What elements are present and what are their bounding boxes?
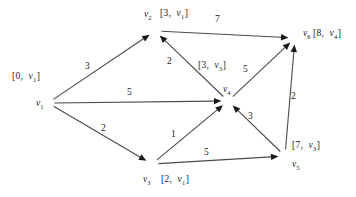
node-name-v1: v1 <box>36 99 43 110</box>
edge-v2-to-v6 <box>161 31 281 37</box>
node-name-v5: v5 <box>292 160 299 171</box>
node-distance-label-v4: [3, v3] <box>198 61 226 72</box>
arrowhead-v1-to-v3 <box>138 154 146 161</box>
edge-v3-to-v5 <box>158 157 271 164</box>
edge-weight-v1-to-v3: 2 <box>101 124 106 134</box>
edge-v5-to-v4 <box>238 111 280 152</box>
node-name-v4: v4 <box>223 85 230 96</box>
arrowhead-v5-to-v6 <box>291 44 297 52</box>
node-distance-label-v6: [8, v4] <box>313 29 341 40</box>
edge-weight-v1-to-v4: 5 <box>127 88 132 98</box>
node-distance-label-v2: [3, v1] <box>160 9 188 20</box>
node-distance-label-v3: [2, v1] <box>161 175 189 186</box>
edge-weight-v1-to-v2: 3 <box>85 62 90 72</box>
edge-weight-v2-to-v6: 7 <box>215 15 220 25</box>
arrowhead-v1-to-v4 <box>214 98 222 104</box>
edge-weight-v4-to-v2: 2 <box>167 57 172 67</box>
edge-weight-v3-to-v4: 1 <box>171 130 176 140</box>
node-distance-label-v5: [7, v3] <box>292 141 320 152</box>
edge-weight-v3-to-v5: 5 <box>204 148 209 158</box>
node-name-v3: v3 <box>143 175 150 186</box>
arrowhead-v2-to-v6 <box>281 34 289 40</box>
edge-v4-to-v6 <box>233 48 285 97</box>
edge-v1-to-v3 <box>54 106 140 157</box>
edge-weight-v4-to-v6: 5 <box>243 65 248 75</box>
node-distance-label-v1: [0, v1] <box>12 72 40 83</box>
edge-weight-v5-to-v4: 3 <box>248 112 253 122</box>
edge-v1-to-v4 <box>54 101 214 103</box>
arrowhead-v3-to-v5 <box>271 154 279 160</box>
graph-figure: 3527251532v1[0, v1]v2[3, v1]v3[2, v1]v4[… <box>0 0 356 197</box>
edge-weight-v5-to-v6: 2 <box>291 92 296 102</box>
node-name-v2: v2 <box>144 10 151 21</box>
node-name-v6: v6 <box>303 29 310 40</box>
arrowhead-v1-to-v2 <box>142 35 150 42</box>
